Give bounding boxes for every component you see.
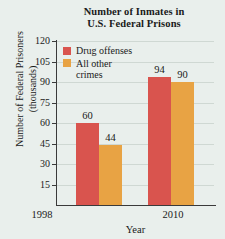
y-tick-label-90: 90 (4, 77, 50, 87)
x-tick-label-2010: 2010 (143, 209, 203, 220)
y-axis-line (56, 40, 57, 206)
y-tick-label-75: 75 (4, 98, 50, 108)
x-axis-line (56, 205, 216, 206)
legend-item-all-other-crimes: All other crimes (63, 58, 132, 81)
y-tick-label-15: 15 (4, 180, 50, 190)
y-tick-label-105: 105 (4, 57, 50, 67)
legend-label-all-other-crimes: All other crimes (76, 58, 112, 81)
legend-swatch-drug-offenses (63, 47, 71, 55)
chart-title-line-1: Number of Inmates in (48, 6, 220, 18)
legend-label-all-other-crimes-line-1: All other (76, 58, 112, 70)
legend-item-drug-offenses: Drug offenses (63, 45, 132, 57)
bar-chart-figure: Number of Inmates in U.S. Federal Prison… (0, 0, 225, 239)
y-tick-label-60: 60 (4, 118, 50, 128)
x-axis-title: Year (57, 224, 214, 235)
bar-2010-all-other-crimes (171, 82, 194, 205)
chart-legend: Drug offenses All other crimes (63, 45, 132, 82)
chart-title-line-2: U.S. Federal Prisons (48, 18, 220, 30)
bar-value-1998-drug-offenses: 60 (73, 110, 103, 121)
y-tick-label-45: 45 (4, 139, 50, 149)
bar-value-2010-all-other-crimes: 90 (168, 69, 198, 80)
bar-1998-all-other-crimes (99, 145, 122, 205)
bar-value-1998-all-other-crimes: 44 (96, 132, 126, 143)
y-tick-label-120: 120 (4, 36, 50, 46)
legend-swatch-all-other-crimes (63, 59, 71, 67)
chart-title: Number of Inmates in U.S. Federal Prison… (48, 6, 220, 30)
x-tick-label-1998: 1998 (12, 209, 72, 220)
legend-label-drug-offenses-line-1: Drug offenses (76, 45, 132, 57)
legend-label-all-other-crimes-line-2: crimes (76, 69, 112, 81)
y-tick-label-30: 30 (4, 159, 50, 169)
bar-2010-drug-offenses (148, 77, 171, 206)
legend-label-drug-offenses: Drug offenses (76, 45, 132, 57)
gridline-120 (57, 41, 214, 42)
